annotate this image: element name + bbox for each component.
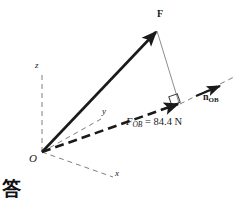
unit-vector-symbol: n bbox=[203, 91, 209, 102]
perpendicular-drop-line bbox=[157, 31, 179, 103]
projection-vector-line bbox=[42, 104, 178, 152]
vector-diagram-figure: z y x O F nOB FOB = 84.4 N 答 bbox=[0, 0, 241, 204]
y-axis-line bbox=[42, 119, 101, 152]
unit-vector-subscript: OB bbox=[209, 96, 219, 104]
right-angle-marker bbox=[169, 94, 180, 105]
diagram-canvas bbox=[0, 0, 241, 204]
y-axis-label: y bbox=[102, 107, 106, 116]
answer-marker: 答 bbox=[2, 180, 21, 199]
unit-vector-label: nOB bbox=[203, 92, 219, 102]
force-vector-label: F bbox=[157, 9, 163, 19]
x-axis-line bbox=[42, 152, 113, 177]
projection-subscript: OB bbox=[132, 120, 142, 129]
origin-label: O bbox=[29, 153, 37, 164]
force-vector-line bbox=[42, 32, 156, 152]
x-axis-label: x bbox=[115, 169, 119, 178]
projection-magnitude-label: FOB = 84.4 N bbox=[126, 117, 182, 128]
z-axis-label: z bbox=[35, 61, 39, 70]
projection-value: = 84.4 N bbox=[145, 116, 182, 127]
